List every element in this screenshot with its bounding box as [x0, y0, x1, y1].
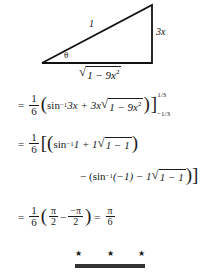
coefficient-fraction-2: 1 6: [29, 132, 39, 156]
radical-sign-icon: √: [79, 65, 86, 80]
base-radicand-exponent: 2: [116, 68, 120, 76]
close-paren-1: ): [143, 96, 149, 112]
coefficient-fraction-1: 1 6: [29, 93, 39, 117]
evaluation-bracket-symbol: ]: [151, 96, 157, 112]
radical-3: √ 1 − 1: [152, 169, 186, 183]
arcsin-exponent-3: −1: [105, 172, 112, 180]
radicand-1: 1 − 9x2: [108, 98, 143, 113]
horizontal-rule: [75, 264, 145, 268]
hypotenuse-label: 1: [89, 18, 94, 29]
arcsin-function-1: sin: [47, 99, 60, 111]
evaluation-limits: 1/3 −1/3: [157, 92, 170, 118]
radical-sign-icon-1: √: [101, 97, 108, 112]
close-paren-2: ): [132, 135, 138, 151]
close-brackets-3: )]: [186, 167, 199, 183]
coefficient-numerator-1: 1: [29, 93, 39, 105]
arcsin-function-2: sin: [53, 138, 66, 150]
solution-line-3: − ( sin−1 (−1) − 1 √ 1 − 1 )]: [80, 168, 198, 184]
radical-2: √ 1 − 1: [98, 137, 132, 151]
star-icon: ★: [107, 250, 114, 258]
lower-limit: −1/3: [157, 111, 170, 118]
solution-line-2: = 1 6 [( sin−1 1 + 1 √ 1 − 1 ): [18, 132, 138, 156]
minus-operator-4: −: [60, 211, 66, 223]
negative-pi-over-two-denominator: 2: [71, 217, 80, 227]
triangle-figure: 1 3x θ √ 1 − 9x2: [0, 0, 207, 88]
radicand-exponent-1: 2: [138, 100, 142, 108]
evaluation-bracket: ] 1/3 −1/3: [151, 92, 170, 118]
angle-theta-label: θ: [64, 50, 68, 60]
arcsin-function-3: sin: [93, 170, 106, 182]
equals-sign-2: =: [18, 138, 24, 150]
radicand-text-1: 1 − 9x: [109, 100, 138, 112]
section-divider: ★ ★ ★: [0, 250, 207, 279]
solution-line-4: = 1 6 ( π 2 − −π 2 ) = π 6: [18, 205, 117, 229]
coefficient-fraction-4: 1 6: [29, 205, 39, 229]
star-icon: ★: [138, 250, 145, 258]
opposite-side-label: 3x: [156, 26, 165, 37]
negative-pi-over-two-fraction: −π 2: [68, 206, 83, 228]
arcsin-argument-1: 3x + 3x: [67, 99, 101, 111]
radical-sign-icon-2: √: [98, 136, 105, 150]
coefficient-denominator-1: 6: [29, 106, 39, 117]
base-radical: √ 1 − 9x2: [79, 66, 121, 81]
arcsin-argument-2: 1 + 1: [74, 138, 98, 150]
radical-sign-icon-3: √: [152, 168, 159, 182]
open-paren-1: (: [41, 96, 47, 112]
minus-open-paren-3: − (: [80, 170, 93, 182]
result-fraction: π 6: [106, 206, 115, 228]
star-ornament-row: ★ ★ ★: [75, 250, 145, 258]
triangle-shape: [42, 5, 152, 63]
base-radicand-text: 1 − 9x: [87, 69, 116, 81]
solution-line-1: = 1 6 ( sin−1 3x + 3x √ 1 − 9x2 ) ] 1/3 …: [18, 92, 170, 118]
upper-limit: 1/3: [157, 92, 170, 99]
close-paren-4: ): [85, 208, 91, 224]
equals-sign-5: =: [94, 211, 100, 223]
equals-sign-4: =: [18, 211, 24, 223]
result-denominator: 6: [106, 217, 115, 227]
pi-over-two-fraction: π 2: [49, 206, 58, 228]
radicand-3: 1 − 1: [159, 169, 186, 183]
star-icon: ★: [75, 250, 82, 258]
radicand-2: 1 − 1: [105, 137, 132, 151]
arcsin-argument-3: (−1) − 1: [113, 170, 152, 182]
base-side-label: √ 1 − 9x2: [79, 66, 121, 81]
coefficient-denominator-4: 6: [29, 217, 39, 228]
arcsin-exponent-2: −1: [66, 140, 73, 148]
open-paren-4: (: [41, 208, 47, 224]
equals-sign-1: =: [18, 99, 24, 111]
pi-over-two-denominator: 2: [49, 217, 58, 227]
open-brackets-2: [(: [41, 135, 54, 151]
coefficient-denominator-2: 6: [29, 144, 39, 155]
radical-1: √ 1 − 9x2: [101, 98, 143, 113]
base-radicand: 1 − 9x2: [86, 66, 121, 81]
